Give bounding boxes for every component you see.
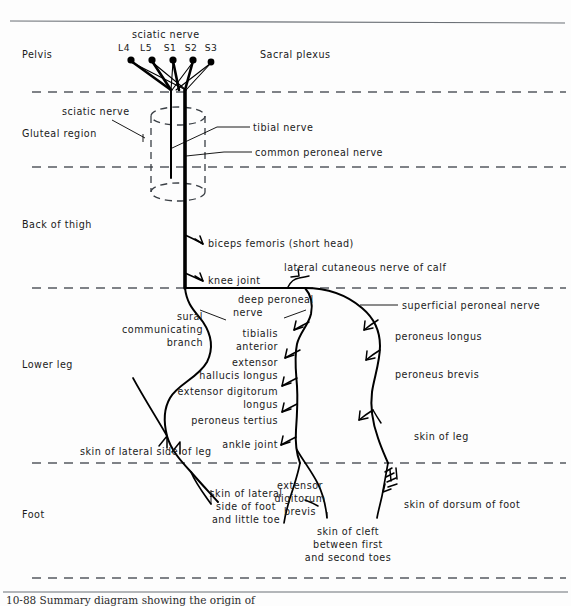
region-label-foot: Foot [22,509,45,520]
label-root-l5: L5 [140,42,152,53]
leader-sciatic-nerve-gluteal [112,120,145,138]
figure-caption: 10-88 Summary diagram showing the origin… [6,594,256,606]
label-root-s2: S2 [185,42,197,53]
label-sural-line3: branch [167,337,203,348]
label-tibialis-anterior-line1: tibialis [243,328,278,339]
deep-peroneal-nerve [295,288,311,463]
label-extensor-hallucis-line1: extensor [232,357,278,368]
leader-tibial-nerve [170,127,217,149]
label-superficial-peroneal-nerve: superficial peroneal nerve [402,300,540,311]
sural-proximal-link [133,378,167,436]
leader-deep-peroneal [284,310,306,318]
arrow-biceps-femoris [195,236,203,244]
label-extensor-digitorum-longus-line2: longus [243,399,278,410]
label-sciatic-nerve-top: sciatic nerve [132,29,200,40]
leader-sural-branch [200,310,226,320]
label-common-peroneal-nerve: common peroneal nerve [255,147,383,158]
label-root-s1: S1 [164,42,176,53]
label-peroneus-longus: peroneus longus [395,331,482,342]
label-ankle-joint: ankle joint [222,439,278,450]
diagram-canvas: sciatic nerve Sacral plexus L4 L5 S1 S2 … [0,0,571,606]
label-extensor-digitorum-longus-line1: extensor digitorum [177,386,278,397]
label-root-l4: L4 [118,42,130,53]
region-label-pelvis: Pelvis [22,49,52,60]
label-sciatic-nerve-gluteal: sciatic nerve [62,106,130,117]
label-extensor-digitorum-brevis-line1: extensor [277,480,323,491]
label-skin-dorsum-of-foot: skin of dorsum of foot [404,499,520,510]
label-tibial-nerve: tibial nerve [253,122,313,133]
deep-peroneal-twigs [281,321,309,445]
label-extensor-digitorum-brevis-line3: brevis [284,506,316,517]
label-peroneus-brevis: peroneus brevis [395,369,479,380]
top-rule [10,21,565,23]
label-skin-lateral-foot-line1: skin of lateral [210,488,283,499]
superficial-peroneal-nerve [305,288,388,463]
branch-skin-lateral-foot [191,472,211,504]
label-sural-line2: communicating [122,324,203,335]
label-skin-lateral-side-of-leg: skin of lateral side of leg [80,446,212,457]
label-deep-peroneal-nerve-line2: nerve [233,307,263,318]
region-label-back-of-thigh: Back of thigh [22,219,92,230]
label-sacral-plexus: Sacral plexus [260,49,331,60]
label-biceps-femoris: biceps femoris (short head) [208,238,354,249]
label-skin-cleft-line2: between first [313,539,383,550]
label-skin-lateral-foot-line2: side of foot [216,501,276,512]
sacral-plexus-strands [131,61,211,90]
label-knee-joint: knee joint [208,275,261,286]
label-tibialis-anterior-line2: anterior [236,341,278,352]
label-root-s3: S3 [205,42,217,53]
label-skin-of-leg: skin of leg [414,431,469,442]
label-sural-line1: sural [177,311,203,322]
sciatic-nerve-diagram: sciatic nerve Sacral plexus L4 L5 S1 S2 … [0,0,571,606]
gluteal-cylinder [151,107,205,201]
superficial-peroneal-twigs [359,320,381,423]
label-skin-cleft-line3: and second toes [305,552,391,563]
label-extensor-digitorum-brevis-line2: digitorum [274,493,325,504]
label-lateral-cutaneous-nerve-of-calf: lateral cutaneous nerve of calf [284,262,446,273]
region-label-gluteal-region: Gluteal region [22,128,97,139]
label-skin-lateral-foot-line3: and little toe [212,514,280,525]
region-label-lower-leg: Lower leg [22,359,73,370]
label-skin-cleft-line1: skin of cleft [317,526,379,537]
label-deep-peroneal-nerve-line1: deep peroneal [238,294,314,305]
label-extensor-hallucis-line2: hallucis longus [199,370,278,381]
label-peroneus-tertius: peroneus tertius [191,415,278,426]
